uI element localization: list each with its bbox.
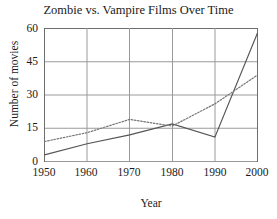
x-tick-label-1990: 1990 bbox=[193, 166, 237, 178]
x-axis-label: Year bbox=[44, 196, 258, 210]
chart-figure: Zombie vs. Vampire Films Over Time Numbe… bbox=[0, 0, 277, 219]
series-line-vampire bbox=[45, 75, 258, 142]
y-tick-label-0: 0 bbox=[10, 156, 38, 167]
y-axis-label: Number of movies bbox=[8, 24, 20, 144]
x-tick-label-1960: 1960 bbox=[64, 166, 108, 178]
series-line-zombie bbox=[45, 33, 258, 155]
plot-area bbox=[44, 28, 258, 162]
chart-title: Zombie vs. Vampire Films Over Time bbox=[0, 2, 277, 18]
x-tick-label-1970: 1970 bbox=[107, 166, 151, 178]
x-tick-label-1980: 1980 bbox=[150, 166, 194, 178]
plot-svg bbox=[44, 28, 258, 162]
grid-lines bbox=[44, 28, 258, 162]
x-tick-label-2000: 2000 bbox=[235, 166, 277, 178]
x-tick-label-1950: 1950 bbox=[22, 166, 66, 178]
